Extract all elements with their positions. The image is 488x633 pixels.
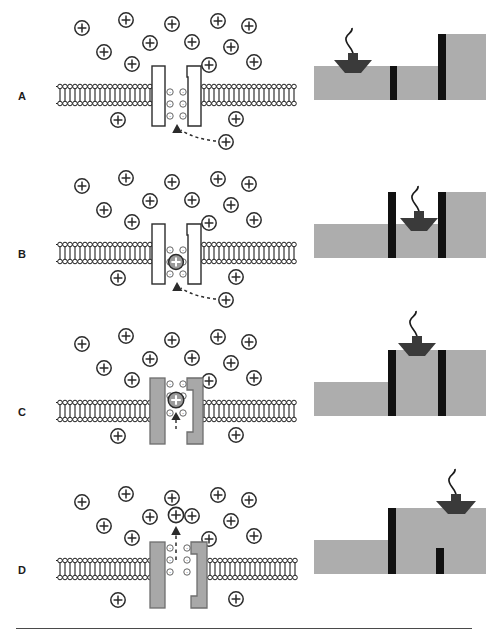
ion-cation — [247, 529, 261, 543]
ion-cation — [224, 198, 238, 212]
lipid-bilayer-right — [200, 84, 296, 106]
ion-cation — [242, 335, 256, 349]
panel-d-lock-view — [312, 474, 488, 632]
panel-a-membrane-view: - - - - - - — [40, 0, 310, 158]
panel-label-d: D — [18, 564, 26, 576]
ion-cation — [242, 177, 256, 191]
lipid-bilayer-left — [56, 400, 152, 422]
extracellular-ions-c — [75, 329, 261, 388]
ion-cation — [75, 21, 89, 35]
channel-protein-left-subunit — [152, 224, 165, 284]
ion-cation — [185, 35, 199, 49]
ion-cation — [229, 592, 243, 606]
channel-protein-right-subunit — [187, 66, 201, 126]
ion-cation — [111, 113, 125, 127]
lock-water-low-left — [314, 66, 442, 100]
channel-protein-left-subunit — [150, 378, 165, 444]
ion-cation — [211, 14, 225, 28]
lipid-bilayer-right — [200, 242, 296, 264]
ion-cation — [185, 509, 199, 523]
lipid-bilayer-right — [206, 558, 297, 580]
lock-gate-left-up — [388, 508, 396, 574]
ion-cation — [143, 510, 157, 524]
ion-cation — [165, 491, 179, 505]
ion-cation — [119, 13, 133, 27]
ion-cation — [202, 216, 216, 230]
ion-cation — [211, 172, 225, 186]
ion-cation — [125, 373, 139, 387]
extracellular-ions-a — [75, 13, 261, 72]
ion-cation — [242, 19, 256, 33]
figure-bottom-rule — [16, 628, 472, 629]
lock-water-high-right — [442, 350, 486, 416]
ion-cation — [165, 17, 179, 31]
ion-cation — [224, 40, 238, 54]
ion-cation — [111, 593, 125, 607]
channel-protein-right-subunit — [187, 378, 203, 444]
panel-label-a: A — [18, 90, 26, 102]
ion-cation-released — [168, 507, 183, 522]
ion-cation — [125, 531, 139, 545]
ion-cation — [229, 270, 243, 284]
ion-cation — [165, 175, 179, 189]
panel-a-lock-view — [312, 0, 488, 158]
ion-cation — [75, 337, 89, 351]
ion-cation-bound-in-pore — [169, 255, 184, 270]
pore-negative-charges: - - - - - - — [167, 545, 190, 575]
ion-cation — [111, 429, 125, 443]
ion-cation — [119, 329, 133, 343]
boat-icon — [334, 28, 372, 73]
lock-gate-left-up — [388, 350, 396, 416]
ion-cation — [97, 519, 111, 533]
boat-icon — [436, 469, 476, 514]
panel-d: D — [0, 474, 488, 632]
lock-water-high-right — [442, 192, 486, 258]
ion-cation — [211, 488, 225, 502]
ion-channel-lock-analogy-figure: A — [0, 0, 488, 633]
channel-protein-right-subunit — [187, 224, 201, 284]
channel-protein-left-subunit — [150, 542, 165, 608]
ion-cation — [202, 374, 216, 388]
lipid-bilayer-left — [56, 242, 152, 264]
panel-b-membrane-view: - - - - - - — [40, 158, 310, 316]
ion-cation — [247, 213, 261, 227]
lock-gate-right-down — [436, 548, 444, 574]
ion-exit-arrow-d — [171, 526, 181, 560]
ion-cation — [185, 351, 199, 365]
ion-cation — [75, 179, 89, 193]
lock-gate-right-up — [438, 34, 446, 100]
extracellular-ions-b — [75, 171, 261, 230]
ion-cation — [75, 495, 89, 509]
panel-d-membrane-view: - - - - - - — [40, 474, 310, 632]
lock-water-low-left — [314, 540, 394, 574]
panel-label-c: C — [18, 406, 26, 418]
lock-gate-right-up — [438, 192, 446, 258]
ion-cation — [229, 428, 243, 442]
boat-icon — [400, 186, 438, 231]
panel-c-membrane-view: - - - - - - — [40, 316, 310, 474]
ion-cation-approaching — [219, 135, 233, 149]
ion-cation — [119, 487, 133, 501]
ion-cation-approaching — [219, 293, 233, 307]
ion-cation — [143, 36, 157, 50]
ion-cation — [111, 271, 125, 285]
ion-cation — [247, 371, 261, 385]
ion-cation-bound-in-pore — [168, 392, 184, 408]
panel-a: A — [0, 0, 488, 158]
ion-cation — [224, 356, 238, 370]
ion-cation — [125, 215, 139, 229]
boat-icon — [398, 311, 436, 356]
ion-cation — [247, 55, 261, 69]
lock-gate-right-up — [438, 350, 446, 416]
ion-cation — [119, 171, 133, 185]
ion-cation — [165, 333, 179, 347]
lipid-bilayer-left — [56, 558, 152, 580]
ion-cation — [97, 45, 111, 59]
ion-cation — [185, 193, 199, 207]
lock-gate-left-up — [388, 192, 396, 258]
lock-chamber-water-high — [390, 350, 440, 416]
channel-protein-left-subunit — [152, 66, 165, 126]
panel-c-lock-view — [312, 316, 488, 474]
ion-cation — [202, 58, 216, 72]
ion-cation — [229, 112, 243, 126]
